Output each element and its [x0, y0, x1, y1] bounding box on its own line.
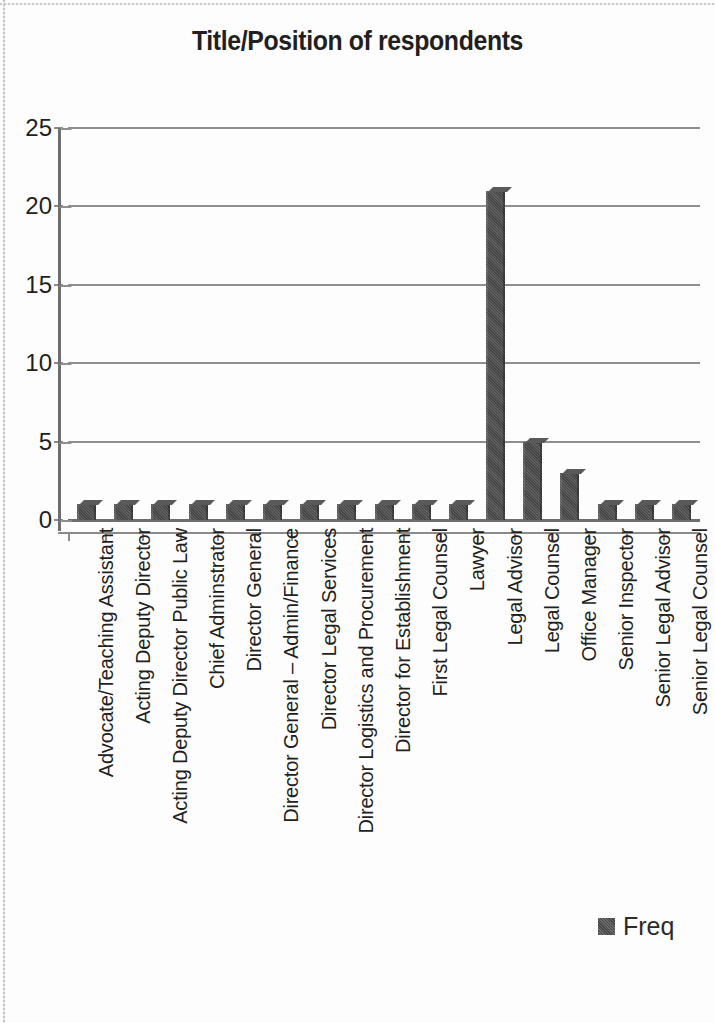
- x-axis-tick-label: Office Manager: [578, 528, 601, 662]
- x-axis-tick-label: Advocate/Teaching Assistant: [95, 528, 118, 777]
- x-axis-tick-label: First Legal Counsel: [429, 528, 452, 697]
- x-axis-tick-label: Lawyer: [466, 528, 489, 591]
- x-axis-tick-label: Director Logistics and Procurement: [355, 528, 378, 834]
- x-axis-tick-label: Legal Advisor: [504, 528, 527, 645]
- bar: [449, 504, 468, 520]
- x-axis-tick-label: Senior Inspector: [615, 528, 638, 670]
- x-axis-labels: Advocate/Teaching AssistantActing Deputy…: [68, 528, 700, 888]
- bar-series-freq: [68, 128, 700, 520]
- x-axis-tick-label: Senior Legal Counsel: [689, 528, 712, 715]
- bar: [226, 504, 245, 520]
- chart-legend: Freq: [598, 912, 674, 941]
- x-axis-tick-label: Director General: [243, 528, 266, 672]
- bar: [635, 504, 654, 520]
- bar: [300, 504, 319, 520]
- y-axis-line: [58, 128, 61, 531]
- x-axis-tick-label: Legal Counsel: [541, 528, 564, 653]
- bar: [189, 504, 208, 520]
- x-axis-tick-label: Director General – Admin/Finance: [280, 528, 303, 823]
- bar: [560, 473, 579, 520]
- chart-page: Title/Position of respondents 0510152025…: [0, 0, 715, 1023]
- x-axis-tick-label: Director Legal Services: [318, 528, 341, 730]
- bar: [375, 504, 394, 520]
- bar: [114, 504, 133, 520]
- x-axis-tick-label: Chief Adminstrator: [206, 528, 229, 689]
- legend-label: Freq: [623, 912, 674, 941]
- chart-title: Title/Position of respondents: [29, 26, 687, 57]
- x-axis-tick-label: Director for Establishment: [392, 528, 415, 753]
- bar: [77, 504, 96, 520]
- x-axis-tick-label: Acting Deputy Director Public Law: [169, 528, 192, 824]
- bar: [672, 504, 691, 520]
- page-edge-top: [0, 3, 715, 5]
- bar: [523, 442, 542, 520]
- plot-area: [68, 128, 700, 520]
- legend-swatch-icon: [598, 918, 615, 935]
- bar: [151, 504, 170, 520]
- bar: [598, 504, 617, 520]
- x-axis-tick-label: Senior Legal Advisor: [652, 528, 675, 707]
- bar: [337, 504, 356, 520]
- x-axis-tick-label: Acting Deputy Director: [132, 528, 155, 724]
- bar: [486, 191, 505, 520]
- bar: [263, 504, 282, 520]
- bar: [412, 504, 431, 520]
